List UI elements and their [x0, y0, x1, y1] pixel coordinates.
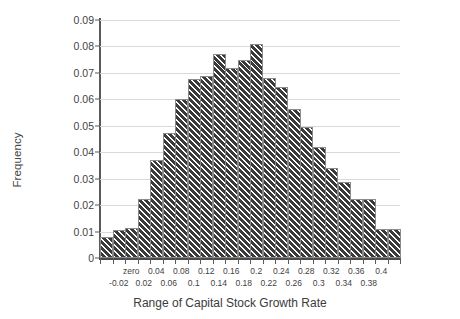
x-tick-label: 0.08 [173, 266, 190, 276]
x-tick-label: 0.12 [198, 266, 215, 276]
x-tick-label: 0.1 [188, 278, 200, 288]
x-tick-label: 0.16 [223, 266, 240, 276]
x-axis-tick-labels: -0.02zero0.020.040.060.080.10.120.140.16… [0, 258, 460, 298]
histogram-bar [350, 199, 363, 258]
x-tick-label: -0.02 [109, 278, 128, 288]
histogram-bar [100, 237, 113, 258]
histogram-bar [238, 60, 251, 258]
plot-area [100, 20, 400, 258]
histogram-bar [138, 199, 151, 258]
histogram-bar [388, 229, 401, 258]
histogram-bar [288, 109, 301, 258]
x-tick-label: 0.04 [148, 266, 165, 276]
histogram-bar [163, 133, 176, 258]
histogram-bar [225, 68, 238, 258]
histogram-chart: Frequency 00.010.020.030.040.050.060.070… [0, 0, 460, 319]
histogram-bar [125, 228, 138, 258]
x-tick-label: 0.06 [160, 278, 177, 288]
x-tick-label: 0.18 [235, 278, 252, 288]
histogram-bar [250, 44, 263, 258]
x-tick-label: 0.22 [260, 278, 277, 288]
x-tick-label: 0.02 [135, 278, 152, 288]
histogram-bar [275, 87, 288, 258]
x-tick-label: 0.14 [210, 278, 227, 288]
histogram-bar [375, 229, 388, 258]
x-tick-label: 0.2 [250, 266, 262, 276]
x-axis-title: Range of Capital Stock Growth Rate [0, 296, 460, 310]
x-tick-label: 0.24 [273, 266, 290, 276]
x-tick-label: 0.32 [323, 266, 340, 276]
x-tick-label: 0.4 [375, 266, 387, 276]
x-tick-label: 0.26 [285, 278, 302, 288]
x-tick-label: 0.36 [348, 266, 365, 276]
histogram-bar [188, 79, 201, 258]
histogram-bar [150, 160, 163, 258]
histogram-bar [300, 127, 313, 258]
histogram-bar [338, 182, 351, 258]
histogram-bar [313, 147, 326, 258]
bar-series [100, 20, 400, 258]
histogram-bar [363, 199, 376, 258]
y-axis-tick-marks [0, 20, 100, 258]
histogram-bar [263, 78, 276, 258]
x-tick-label: 0.28 [298, 266, 315, 276]
histogram-bar [213, 54, 226, 258]
histogram-bar [175, 99, 188, 258]
x-tick-label: 0.3 [313, 278, 325, 288]
histogram-bar [325, 168, 338, 258]
x-tick-label: zero [123, 266, 140, 276]
histogram-bar [113, 230, 126, 258]
x-tick-label: 0.38 [360, 278, 377, 288]
x-tick-label: 0.34 [335, 278, 352, 288]
histogram-bar [200, 76, 213, 258]
